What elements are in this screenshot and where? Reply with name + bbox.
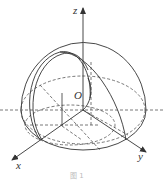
sphere-diagram: z x y O 图 1 bbox=[0, 0, 164, 181]
z-axis-label: z bbox=[72, 4, 78, 16]
x-axis-label: x bbox=[15, 159, 21, 171]
diagonal-dashed-3 bbox=[62, 126, 82, 140]
meridian-curve-right bbox=[60, 52, 126, 140]
origin-label: O bbox=[74, 89, 82, 101]
figure-caption: 图 1 bbox=[70, 172, 84, 180]
small-arc-center bbox=[83, 78, 91, 110]
y-axis-label: y bbox=[137, 150, 143, 162]
diagonal-dashed-2 bbox=[83, 110, 128, 135]
